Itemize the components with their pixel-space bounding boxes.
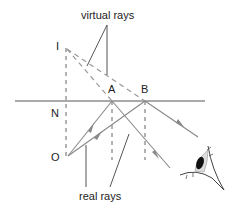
real-rays-pointer	[110, 134, 129, 187]
image-point-label: I	[56, 41, 59, 52]
arrow-icon	[94, 131, 102, 140]
point-a-label: A	[108, 84, 115, 95]
incident-ray-b	[68, 101, 145, 156]
virtual-rays-pointer	[87, 25, 107, 66]
normal-point-label: N	[51, 108, 59, 119]
real-rays-label: real rays	[79, 191, 121, 202]
reflected-ray-b	[145, 101, 198, 137]
point-b-label: B	[141, 84, 148, 95]
eye-icon	[180, 146, 224, 190]
arrow-icon	[176, 119, 184, 127]
diagram-canvas	[0, 0, 235, 213]
virtual-rays-label: virtual rays	[81, 10, 134, 21]
object-point-label: O	[51, 152, 60, 163]
arrow-icon	[88, 123, 94, 133]
